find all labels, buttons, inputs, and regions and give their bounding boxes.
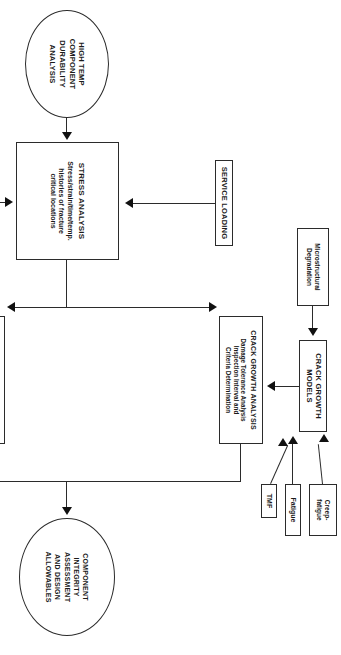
connector-stress-bus-vertical [11,307,211,308]
node-line: Criteria Determination [225,347,232,413]
connector-cgm-to-cga [273,386,299,387]
node-line: histories of fracture [57,168,65,234]
node-title: TMF [265,494,273,508]
arrowhead-tmf-to-cgm [278,438,288,446]
node-line: Microstructural [313,243,321,290]
node-crack-growth-models: CRACK GROWTH MODELS [299,340,327,432]
node-microstructural-degradation-top: Microstructural Degradation [297,228,329,306]
connector-creep-fatigue-to-cgm [318,444,323,484]
node-title: SERVICE LOADING [220,167,229,239]
arrowhead-stress-to-crack-growth [209,302,217,312]
connector-bus-to-final [66,481,67,509]
arrowhead-service-to-stress [125,198,133,208]
node-title: CRACK GROWTH ANALYSIS [249,330,257,430]
ellipse-line: COMPONENT [67,39,77,90]
connector-cga-output [240,444,241,482]
node-line: Creep- [323,500,331,521]
node-line: Degradation [305,248,313,286]
ellipse-line: INTEGRITY [72,557,81,596]
ellipse-line: HIGH TEMP [77,42,87,85]
ellipse-line: ANALYSIS [48,45,58,84]
ellipse-line: DURABILITY [57,40,67,87]
node-component-integrity-assessment: COMPONENT INTEGRITY ASSESSMENT AND DESIG… [19,518,115,636]
connector-fatigue-to-cgm [292,444,293,484]
node-line: critical locations [49,173,57,228]
node-line: Inspection Interval and [232,346,239,415]
node-line: fatigue [315,499,323,520]
arrowhead-deformation-to-stress [5,197,13,207]
connector-service-to-stress [131,203,215,204]
node-service-loading: SERVICE LOADING [215,160,233,246]
node-creep-fatigue-top: Creep- fatigue [309,484,337,536]
node-title: STRESS ANALYSIS [77,163,86,240]
flowchart-stage: HIGH TEMP COMPONENT DURABILITY ANALYSIS … [0,0,341,655]
node-crack-growth-analysis: CRACK GROWTH ANALYSIS Damage Tolerance A… [219,316,263,444]
ellipse-line: ASSESSMENT [62,552,71,602]
arrowhead-bus-to-final [62,507,72,515]
ellipse-line: AND DESIGN [53,554,62,600]
arrowhead-fatigue-to-cgm [288,436,298,444]
connector-tmf-to-cgm [270,445,288,484]
figure-canvas: HIGH TEMP COMPONENT DURABILITY ANALYSIS … [0,0,341,655]
node-tmf-top: TMF [261,484,277,518]
connector-stress-output [66,260,67,308]
node-line: MODELS [304,369,313,402]
arrowhead-stress-to-crack-initiation [7,302,15,312]
arrowhead-micro-top-to-cgm [308,328,318,336]
arrowhead-cgm-to-cga [267,381,275,391]
node-crack-initiation-analysis: CRACK INITIATION ANALYSIS ○ Design Life … [0,316,5,444]
ellipse-line: ALLOWABLES [44,552,53,603]
node-line: Stress/strain/time/temp. [65,161,73,240]
node-title: Fatigue [289,498,297,523]
node-stress-analysis: STRESS ANALYSIS Stress/strain/time/temp.… [16,142,119,260]
node-line: Damage Tolerance Analysis [240,339,247,422]
connector-right-bus [0,481,241,482]
ellipse-line: COMPONENT [81,553,90,600]
node-fatigue-top: Fatigue [285,484,301,536]
arrowhead-creep-fatigue-to-cgm [319,434,329,442]
node-high-temp-durability-analysis: HIGH TEMP COMPONENT DURABILITY ANALYSIS [25,10,109,118]
arrowhead-start-to-stress [62,132,72,140]
connector-micro-top-to-cgm [312,306,313,330]
node-line: CRACK GROWTH [313,353,322,419]
